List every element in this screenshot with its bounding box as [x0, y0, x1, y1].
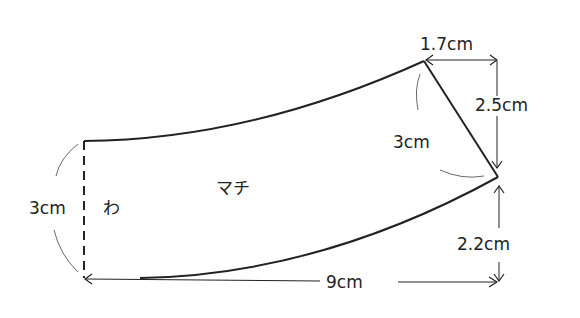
- slant-edge-label: 3cm: [393, 134, 430, 151]
- right-lower-label: 2.2cm: [457, 236, 510, 253]
- top-curve: [84, 61, 424, 141]
- slant-arc-bottom: [440, 170, 484, 177]
- fold-label: わ: [103, 200, 120, 217]
- top-offset-label: 1.7cm: [420, 36, 473, 53]
- left-arc-top: [56, 144, 78, 176]
- pattern-drawing: [0, 0, 580, 318]
- left-arc-bottom: [54, 230, 78, 272]
- part-label: マチ: [216, 180, 250, 197]
- right-upper-label: 2.5cm: [475, 97, 528, 114]
- width-line: [86, 279, 320, 281]
- bottom-curve: [140, 177, 498, 278]
- slant-arc-top: [416, 74, 420, 110]
- slant-edge: [424, 61, 498, 177]
- left-height-label: 3cm: [29, 200, 66, 217]
- width-label: 9cm: [326, 274, 363, 291]
